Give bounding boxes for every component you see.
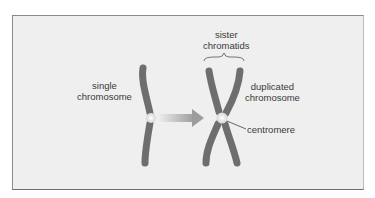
centromere-pointer (227, 121, 246, 129)
brace-icon (204, 53, 244, 61)
centromere-single (146, 113, 156, 123)
label-sister-chromatids: sister chromatids (203, 29, 249, 51)
duplicated-chromosome (206, 71, 240, 163)
chromosome-diagram (0, 0, 375, 198)
single-chromosome (143, 68, 156, 163)
label-single-chromosome: single chromosome (77, 80, 132, 102)
label-centromere: centromere (247, 124, 295, 135)
arrow-icon (158, 109, 204, 127)
centromere-duplicated (217, 113, 228, 124)
label-duplicated-chromosome: duplicated chromosome (245, 81, 300, 103)
